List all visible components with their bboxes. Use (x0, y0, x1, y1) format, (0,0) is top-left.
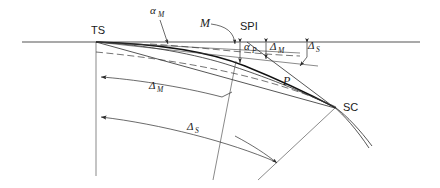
sc-label-text: SC (343, 101, 358, 113)
p-point-label-text: P (282, 74, 291, 88)
delta-s-arc-symbol: Δ (186, 120, 193, 132)
delta-s-top-subscript: S (316, 45, 320, 54)
dashed-offset-line (96, 52, 336, 107)
delta-s-offset-tick (300, 43, 307, 66)
alpha-m-symbol: α (150, 4, 156, 16)
diagram-canvas: TS SC SPI M P α M α P Δ M Δ S (0, 0, 440, 188)
spiral-curve-diagram: TS SC SPI M P α M α P Δ M Δ S (0, 0, 440, 188)
m-point-label-text: M (199, 16, 211, 30)
delta-m-dimension-arc (101, 77, 232, 97)
label-m-point: M (199, 16, 211, 30)
delta-m-top-symbol: Δ (269, 40, 276, 52)
radial-line-spi (213, 61, 236, 180)
ts-label-text: TS (91, 24, 105, 36)
delta-s-arc-arrowhead (235, 136, 277, 163)
m-leader-line (211, 24, 235, 44)
label-p-point: P (282, 74, 291, 88)
long-chord (96, 42, 335, 108)
label-spi: SPI (240, 20, 258, 32)
alpha-p-symbol: α (244, 40, 250, 52)
spi-tangent-chord (247, 42, 335, 108)
delta-m-arc-subscript: M (156, 85, 164, 94)
label-sc: SC (343, 101, 358, 113)
delta-m-top-subscript: M (277, 46, 285, 55)
delta-s-arc-subscript: S (195, 126, 199, 135)
delta-s-top-symbol: Δ (307, 39, 314, 51)
label-ts: TS (91, 24, 105, 36)
radial-line-sc (258, 108, 335, 180)
label-delta-s-top: Δ S (307, 39, 320, 54)
delta-m-arc-symbol: Δ (148, 79, 155, 91)
auxiliary-chord-upper (96, 42, 318, 66)
spi-label-text: SPI (240, 20, 258, 32)
label-alpha-m-top: α M (150, 4, 165, 19)
label-delta-s-arc: Δ S (186, 120, 199, 135)
alpha-m-subscript: M (157, 10, 165, 19)
alpha-m-leader-line (160, 20, 168, 44)
alpha-p-subscript: P (251, 46, 257, 55)
label-delta-m-arc: Δ M (148, 79, 164, 94)
